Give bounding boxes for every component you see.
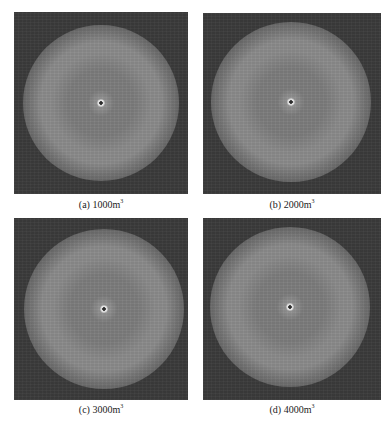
simulation-image-b <box>203 13 381 194</box>
simulation-image-d <box>203 218 381 400</box>
source-point <box>286 303 294 311</box>
source-point <box>100 305 108 313</box>
simulation-image-a <box>14 12 188 194</box>
simulation-image-c <box>14 218 188 400</box>
caption-b: (b) 2000m3 <box>203 199 381 210</box>
source-point <box>97 99 105 107</box>
source-point <box>287 98 295 106</box>
caption-c: (c) 3000m3 <box>14 404 188 415</box>
caption-a: (a) 1000m3 <box>14 199 188 210</box>
caption-d: (d) 4000m3 <box>203 404 381 415</box>
